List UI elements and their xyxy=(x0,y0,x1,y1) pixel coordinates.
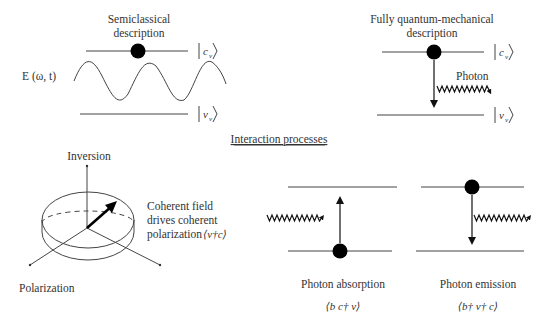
semiclassical-title-line2: description xyxy=(113,27,164,40)
electron-dot xyxy=(131,44,146,59)
diagram-canvas: Semiclassical description E (ω, t) c v v… xyxy=(0,0,555,332)
electron-dot xyxy=(427,45,442,60)
quantum-panel: Fully quantum-mechanical description Pho… xyxy=(370,13,513,124)
photon-wave-icon xyxy=(474,215,530,221)
emission-math: ⟨b† v† c⟩ xyxy=(458,300,498,312)
cylinder-top xyxy=(42,192,134,248)
coherent-desc-line3: polarization xyxy=(147,228,202,241)
svg-text:v: v xyxy=(209,115,213,123)
emission-diagram: Photon emission ⟨b† v† c⟩ xyxy=(416,180,530,313)
svg-text:v: v xyxy=(505,53,509,61)
semiclassical-panel: Semiclassical description E (ω, t) c v v… xyxy=(22,13,226,123)
polarization-axis-label: Polarization xyxy=(19,282,75,294)
svg-text:v: v xyxy=(505,116,509,124)
polarization-vector xyxy=(87,206,112,228)
svg-text:c: c xyxy=(203,45,208,57)
photon-wave-icon xyxy=(437,86,490,92)
em-field-wave xyxy=(74,61,226,100)
semiclassical-title-line1: Semiclassical xyxy=(108,13,171,25)
section-title: Interaction processes xyxy=(231,133,328,146)
svg-text:v: v xyxy=(499,109,504,121)
photon-label: Photon xyxy=(456,70,489,82)
quantum-title-line2: description xyxy=(406,27,457,40)
absorption-math: ⟨b c† v⟩ xyxy=(326,300,361,312)
absorption-diagram: Photon absorption ⟨b c† v⟩ xyxy=(267,187,397,312)
ket-c-upper: c v xyxy=(495,44,513,61)
electron-dot xyxy=(333,244,348,259)
ket-v-lower: v v xyxy=(495,107,513,124)
emission-label: Photon emission xyxy=(440,278,517,290)
svg-text:c: c xyxy=(499,46,504,58)
svg-text:v: v xyxy=(203,108,208,120)
bloch-cylinder-diagram: Inversion Polarization Coherent field dr… xyxy=(19,150,227,294)
coherent-polarization-math: ⟨v†c⟩ xyxy=(203,228,227,240)
electron-dot xyxy=(465,180,480,195)
field-label: E (ω, t) xyxy=(22,70,56,83)
quantum-title-line1: Fully quantum-mechanical xyxy=(370,13,494,26)
ket-v-lower: v v xyxy=(199,106,217,123)
inversion-axis-label: Inversion xyxy=(67,150,111,162)
coherent-desc-line1: Coherent field xyxy=(147,200,213,212)
ket-c-upper: c v xyxy=(199,43,217,60)
svg-text:v: v xyxy=(209,52,213,60)
photon-wave-icon xyxy=(267,215,323,221)
coherent-desc-line2: drives coherent xyxy=(147,214,218,226)
cylinder-equator-dashed xyxy=(42,211,134,223)
absorption-label: Photon absorption xyxy=(301,278,385,291)
